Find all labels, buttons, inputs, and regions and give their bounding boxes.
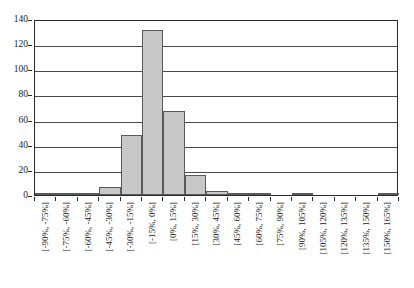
bar [78, 193, 99, 196]
x-tick-label-slot: [135%, 150%] [355, 202, 376, 286]
x-tick-label-slot: [-60%, -45%] [77, 202, 98, 286]
x-tick-label: [15%, 30%] [190, 202, 199, 246]
y-tick-label-60: 60 [19, 116, 29, 126]
x-tick-label: [120%, 135%] [340, 202, 349, 255]
x-tick-label: [-15%, 0%] [147, 202, 156, 244]
x-tick-label-slot: [-30%, -15%] [120, 202, 141, 286]
x-tick-mark-15 [355, 197, 356, 201]
y-tick-label-40: 40 [19, 141, 29, 151]
x-axis: [-90%, -75%][-75%, -60%][-60%, -45%][-45… [34, 197, 398, 287]
y-tick-mark-100 [28, 70, 32, 71]
x-tick-label-slot: [105%, 120%] [312, 202, 333, 286]
x-tick-label-slot: [-90%, -75%] [34, 202, 55, 286]
bar [249, 193, 270, 195]
x-tick-mark-0 [34, 197, 35, 201]
x-tick-label: [150%, 165%] [383, 202, 392, 255]
bar [206, 191, 227, 195]
x-tick-label: [-60%, -45%] [83, 202, 92, 251]
bar [99, 187, 120, 195]
bar [121, 135, 142, 195]
x-tick-label: [-75%, -60%] [62, 202, 71, 251]
y-tick-mark-0 [28, 196, 32, 197]
x-tick-label-slot: [15%, 30%] [184, 202, 205, 286]
x-tick-mark-16 [377, 197, 378, 201]
x-tick-label: [0%, 15%] [169, 202, 178, 241]
x-tick-mark-2 [77, 197, 78, 201]
x-tick-label: [30%, 45%] [211, 202, 220, 246]
x-tick-mark-1 [55, 197, 56, 201]
x-tick-label: [-90%, -75%] [40, 202, 49, 251]
y-tick-label-80: 80 [19, 91, 29, 101]
y-tick-mark-40 [28, 146, 32, 147]
x-tick-mark-14 [334, 197, 335, 201]
x-tick-label-slot: [30%, 45%] [205, 202, 226, 286]
bar [142, 30, 163, 195]
bar [292, 193, 313, 195]
y-tick-mark-120 [28, 45, 32, 46]
x-tick-label-slot: [45%, 60%] [227, 202, 248, 286]
plot-area [34, 20, 398, 196]
x-tick-mark-8 [205, 197, 206, 201]
y-tick-label-120: 120 [14, 40, 28, 50]
x-tick-label: [60%, 75%] [254, 202, 263, 246]
histogram-chart: 020406080100120140 [-90%, -75%][-75%, -6… [0, 0, 414, 288]
x-tick-mark-3 [98, 197, 99, 201]
y-tick-label-140: 140 [14, 15, 28, 25]
x-tick-label-slot: [120%, 135%] [334, 202, 355, 286]
x-tick-mark-17 [398, 197, 399, 201]
bar [163, 111, 184, 195]
x-tick-label: [90%, 105%] [297, 202, 306, 250]
x-tick-label-slot: [-45%, -30%] [98, 202, 119, 286]
y-tick-label-100: 100 [14, 66, 28, 76]
x-tick-label-slot: [75%, 90%] [270, 202, 291, 286]
x-tick-label-slot: [90%, 105%] [291, 202, 312, 286]
x-tick-mark-4 [120, 197, 121, 201]
bar [185, 175, 206, 195]
x-tick-label-slot: [150%, 165%] [377, 202, 398, 286]
x-tick-mark-5 [141, 197, 142, 201]
x-tick-label-slot: [60%, 75%] [248, 202, 269, 286]
x-tick-label: [135%, 150%] [361, 202, 370, 255]
x-tick-label: [75%, 90%] [276, 202, 285, 246]
y-tick-mark-140 [28, 20, 32, 21]
x-tick-label: [45%, 60%] [233, 202, 242, 246]
x-tick-label: [-45%, -30%] [104, 202, 113, 251]
x-tick-mark-13 [312, 197, 313, 201]
x-tick-label-slot: [-15%, 0%] [141, 202, 162, 286]
x-tick-mark-7 [184, 197, 185, 201]
x-tick-label-slot: [-75%, -60%] [55, 202, 76, 286]
x-tick-label-slot: [0%, 15%] [162, 202, 183, 286]
x-tick-mark-11 [270, 197, 271, 201]
bars-layer [35, 21, 397, 195]
x-tick-mark-6 [162, 197, 163, 201]
bar [35, 193, 56, 195]
x-tick-label: [-30%, -15%] [126, 202, 135, 251]
x-tick-mark-12 [291, 197, 292, 201]
y-axis: 020406080100120140 [0, 20, 32, 196]
x-tick-mark-10 [248, 197, 249, 201]
bar [56, 193, 77, 195]
x-tick-label: [105%, 120%] [319, 202, 328, 255]
y-tick-mark-80 [28, 95, 32, 96]
y-tick-label-20: 20 [19, 166, 29, 176]
bar [378, 193, 399, 195]
x-tick-mark-9 [227, 197, 228, 201]
bar [228, 193, 249, 195]
y-tick-mark-20 [28, 171, 32, 172]
y-tick-mark-60 [28, 121, 32, 122]
